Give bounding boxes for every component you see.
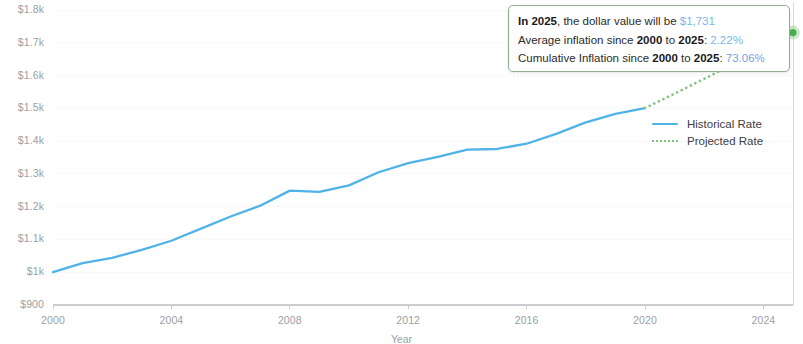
y-axis-tick-label: $1.3k <box>0 167 44 179</box>
tooltip-line2-end-year: 2025 <box>678 34 704 46</box>
x-axis-tick-label: 2008 <box>260 314 320 326</box>
tooltip-line-2: Average inflation since 2000 to 2025: 2.… <box>518 31 780 50</box>
y-axis-tick-label: $1.1k <box>0 232 44 244</box>
tooltip-line-3: Cumulative Inflation since 2000 to 2025:… <box>518 49 780 68</box>
series-line-historical <box>53 108 645 272</box>
legend-item-historical[interactable]: Historical Rate <box>652 115 763 132</box>
legend-label-historical: Historical Rate <box>687 118 762 130</box>
tooltip-line1-mid: , the dollar value will be <box>557 15 680 27</box>
x-axis-tick-label: 2000 <box>23 314 83 326</box>
y-axis-tick-label: $1.6k <box>0 69 44 81</box>
data-tooltip: In 2025, the dollar value will be $1,731… <box>508 5 790 72</box>
y-axis-tick-label: $900 <box>0 298 44 310</box>
y-axis-tick-label: $1.4k <box>0 134 44 146</box>
x-axis-tick-label: 2016 <box>497 314 557 326</box>
tooltip-line-1: In 2025, the dollar value will be $1,731 <box>518 12 780 31</box>
data-point-marker[interactable] <box>789 29 796 36</box>
legend-swatch-dotted-line-icon <box>652 135 678 147</box>
x-axis-title: Year <box>0 333 803 344</box>
tooltip-year: In 2025 <box>518 15 557 27</box>
y-axis-tick-label: $1.8k <box>0 3 44 15</box>
inflation-chart: $900$1k$1.1k$1.2k$1.3k$1.4k$1.5k$1.6k$1.… <box>0 0 803 344</box>
y-axis-tick-label: $1k <box>0 265 44 277</box>
tooltip-line2-a: Average inflation since <box>518 34 637 46</box>
y-axis-tick-label: $1.5k <box>0 101 44 113</box>
x-axis-tick-label: 2004 <box>141 314 201 326</box>
tooltip-line3-start-year: 2000 <box>652 52 678 64</box>
tooltip-dollar-value: $1,731 <box>680 15 715 27</box>
tooltip-line2-start-year: 2000 <box>637 34 663 46</box>
tooltip-line3-c: to <box>678 52 694 64</box>
x-axis-tick-label: 2012 <box>378 314 438 326</box>
legend-label-projected: Projected Rate <box>687 135 763 147</box>
chart-legend: Historical Rate Projected Rate <box>652 115 763 149</box>
legend-swatch-solid-line-icon <box>652 118 678 130</box>
legend-item-projected[interactable]: Projected Rate <box>652 132 763 149</box>
tooltip-average-inflation: 2.22% <box>710 34 743 46</box>
y-axis-tick-label: $1.7k <box>0 36 44 48</box>
y-axis-tick-label: $1.2k <box>0 200 44 212</box>
tooltip-cumulative-inflation: 73.06% <box>726 52 765 64</box>
x-axis-tick-label: 2020 <box>615 314 675 326</box>
x-axis-tick-label: 2024 <box>733 314 793 326</box>
tooltip-line2-c: to <box>662 34 678 46</box>
tooltip-line3-end-year: 2025 <box>694 52 720 64</box>
tooltip-line3-a: Cumulative Inflation since <box>518 52 652 64</box>
